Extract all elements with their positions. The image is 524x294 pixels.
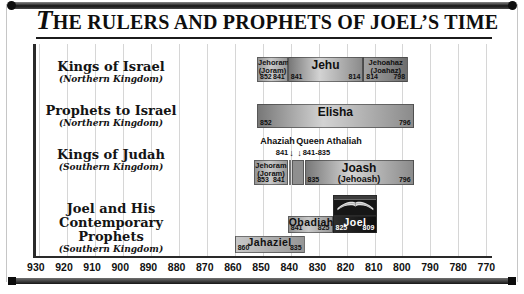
gridline	[458, 44, 459, 256]
annotation-name: Ahaziah	[260, 137, 295, 147]
bar-end-date: 796	[399, 176, 411, 183]
row-sublabel: (Southern Kingdom)	[36, 244, 186, 254]
title-lead-letter: T	[36, 5, 53, 35]
axis-tick-label: 810	[365, 261, 383, 273]
frame-corner	[508, 277, 516, 285]
annotation-date-text: 841-835	[303, 148, 331, 157]
row-sublabel: (Northern Kingdom)	[36, 118, 186, 128]
bar-start-date: 852	[260, 73, 272, 80]
x-axis: 9309209109008908808708608508408308208108…	[33, 261, 492, 277]
bar-name: Elisha	[258, 106, 413, 119]
axis-tick-label: 850	[252, 261, 270, 273]
title-text: HE RULERS AND PROPHETS OF JOEL’S TIME	[53, 11, 499, 33]
row-label-text: Kings of Judah	[36, 148, 186, 162]
axis-tick-label: 830	[309, 261, 327, 273]
bar-end-date: 796	[399, 119, 411, 126]
axis-tick-label: 900	[112, 261, 130, 273]
annotation-queen-athaliah: Queen Athaliah↓841-835	[296, 137, 362, 158]
bar-name-text: Jahaziel	[248, 236, 292, 248]
annotation-ahaziah: Ahaziah841↓	[260, 137, 295, 158]
bar-jahaziel: Jahaziel860835	[235, 236, 305, 253]
row-label-text: Kings of Israel	[36, 60, 186, 74]
row-label-kings-of-israel: Kings of Israel(Northern Kingdom)	[36, 60, 186, 84]
bar-ahaziah	[289, 160, 291, 185]
bar-end-date: 841	[273, 73, 285, 80]
gridline	[430, 44, 431, 256]
axis-tick-label: 910	[83, 261, 101, 273]
axis-tick-label: 770	[478, 261, 496, 273]
page-title: THE RULERS AND PROPHETS OF JOEL’S TIME	[36, 11, 492, 34]
axis-tick-label: 880	[168, 261, 186, 273]
axis-tick-label: 920	[55, 261, 73, 273]
row-label-kings-of-judah: Kings of Judah(Southern Kingdom)	[36, 148, 186, 172]
bar-name-text: Joash	[342, 161, 377, 175]
frame-bottom-rod	[10, 278, 514, 284]
bar-name-text: Jehu	[312, 58, 340, 72]
title-block: THE RULERS AND PROPHETS OF JOEL’S TIME	[36, 11, 492, 39]
row-label-joel-and-his-contemporary-prophets: Joel and His Contemporary Prophets(South…	[36, 202, 186, 254]
timeline-plot-area: Kings of Israel(Northern Kingdom)Jehoram…	[33, 44, 492, 258]
bar-end-date: 835	[290, 244, 302, 251]
bar-end-date: 841	[273, 176, 285, 183]
bar-name: Jehu	[289, 59, 363, 72]
frame-corner	[8, 277, 16, 285]
bar-end-date: 798	[393, 73, 405, 80]
bar-start-date: 841	[291, 73, 303, 80]
axis-tick-label: 790	[421, 261, 439, 273]
row-label-text: Prophets to Israel	[36, 104, 186, 118]
frame-cap	[7, 1, 16, 10]
prophet-block-joel: Joel825809	[333, 195, 378, 233]
bar-end-date: 814	[349, 73, 361, 80]
bar-start-date: 853	[257, 176, 269, 183]
annotation-name: Queen Athaliah	[296, 137, 362, 147]
bar-end-date: 809	[363, 224, 375, 231]
bar-name-text: Elisha	[318, 105, 353, 119]
chart-poster: THE RULERS AND PROPHETS OF JOEL’S TIME K…	[0, 0, 524, 294]
row-label-prophets-to-israel: Prophets to Israel(Northern Kingdom)	[36, 104, 186, 128]
annotation-dates: ↓841-835	[296, 147, 362, 158]
bar-joel: Joel825809	[333, 216, 378, 233]
bar-end-date: 825	[318, 224, 330, 231]
down-arrow-icon: ↓	[288, 148, 295, 158]
axis-tick-label: 930	[27, 261, 45, 273]
axis-tick-label: 870	[196, 261, 214, 273]
frame-side-line	[517, 4, 518, 282]
bar-jehu: Jehu841814	[288, 57, 364, 82]
open-book-photo	[333, 195, 378, 216]
annotation-dates: 841↓	[260, 147, 295, 158]
bar-start-date: 841	[291, 224, 303, 231]
axis-tick-label: 800	[393, 261, 411, 273]
frame-cap	[508, 1, 517, 10]
axis-tick-label: 890	[140, 261, 158, 273]
gridline	[235, 44, 236, 256]
bar-start-date: 825	[336, 224, 348, 231]
row-label-text: Joel and His Contemporary Prophets	[55, 202, 167, 244]
bar-start-date: 852	[260, 119, 272, 126]
bar-start-date: 814	[366, 73, 378, 80]
bar-start-date: 835	[308, 176, 320, 183]
gridline	[486, 44, 487, 256]
bar-name-alt: (Jehoash)	[306, 175, 413, 184]
row-sublabel: (Southern Kingdom)	[36, 162, 186, 172]
bar-obadiah: Obadiah841825	[288, 216, 333, 233]
axis-tick-label: 780	[449, 261, 467, 273]
axis-tick-label: 860	[224, 261, 242, 273]
bar-elisha: Elisha852796	[257, 104, 414, 128]
axis-tick-label: 840	[280, 261, 298, 273]
bar-athaliah	[292, 160, 304, 185]
bar-start-date: 860	[238, 244, 250, 251]
frame-side-line	[6, 4, 7, 282]
bar-jehoahaz: Jehoahaz(Joahaz)814798	[363, 57, 408, 82]
frame-top-rod	[10, 2, 514, 9]
bar-name: Joash(Jehoash)	[306, 162, 413, 184]
gridline	[207, 44, 208, 256]
annotation-date-text: 841	[276, 148, 289, 157]
row-sublabel: (Northern Kingdom)	[36, 74, 186, 84]
down-arrow-icon: ↓	[296, 148, 303, 158]
axis-tick-label: 820	[337, 261, 355, 273]
bar-joash: Joash(Jehoash)835796	[305, 160, 414, 185]
bar-jehoram: Jehoram(Joram)853841	[254, 160, 288, 185]
bar-jehoram: Jehoram(Joram)852841	[257, 57, 288, 82]
